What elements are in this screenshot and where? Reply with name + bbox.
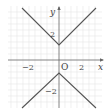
function-graph: y x O −2 2 2 −2 <box>0 0 111 110</box>
origin-label: O <box>61 62 68 72</box>
y-tick-neg2: −2 <box>45 87 57 96</box>
x-tick-2: 2 <box>79 63 84 72</box>
y-tick-2: 2 <box>50 30 55 39</box>
y-axis-label: y <box>49 7 56 17</box>
x-tick-neg2: −2 <box>22 63 34 72</box>
x-axis-label: x <box>98 62 103 72</box>
y-axis-arrow-icon <box>57 6 60 10</box>
